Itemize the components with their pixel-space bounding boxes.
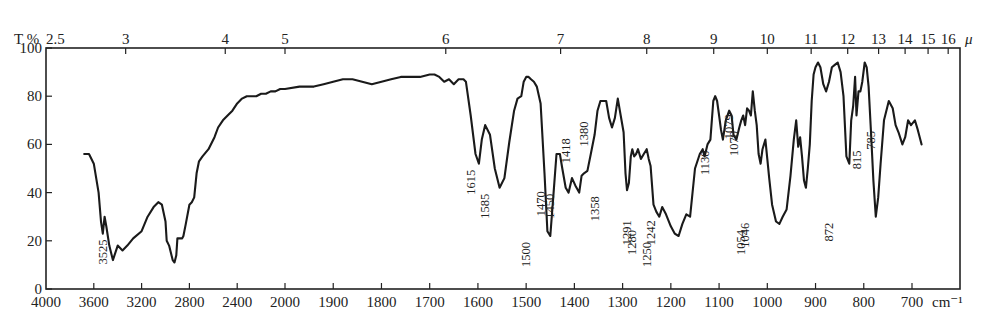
peak-label: 1358 — [588, 196, 602, 221]
peak-label: 785 — [864, 131, 878, 150]
peak-label: 1500 — [519, 242, 533, 267]
micron-tick-label: 13 — [871, 31, 886, 47]
micron-tick-label: 7 — [557, 31, 565, 47]
micron-tick-label: 6 — [442, 31, 450, 47]
peak-label: 1450 — [543, 194, 557, 219]
y-axis: 020406080100 — [20, 40, 53, 297]
peak-label: 1070 — [727, 131, 741, 156]
peak-label: 1615 — [464, 170, 478, 195]
peak-label: 1280 — [625, 230, 639, 255]
x-tick-label: 1000 — [752, 294, 782, 310]
micron-tick-label: 2.5 — [46, 31, 65, 47]
x-tick-label: 1700 — [415, 294, 445, 310]
peak-annotations: 3525161515851500147014501418138013581291… — [96, 114, 878, 267]
spectrum-line — [84, 63, 921, 263]
x-tick-label: 1400 — [559, 294, 589, 310]
peak-label: 872 — [822, 223, 836, 242]
micron-tick-label: 10 — [760, 31, 775, 47]
micron-tick-label: 4 — [222, 31, 230, 47]
micron-tick-label: 16 — [941, 31, 957, 47]
micron-tick-label: 8 — [643, 31, 651, 47]
x-tick-label: 1200 — [656, 294, 686, 310]
peak-label: 815 — [850, 150, 864, 169]
micron-tick-label: 11 — [804, 31, 818, 47]
micron-axis: 2.5345678910111213141516 — [46, 31, 956, 54]
peak-label: 1046 — [738, 223, 752, 248]
peak-label: 1418 — [559, 138, 573, 163]
x-tick-label: 1100 — [704, 294, 733, 310]
x-tick-label: 4000 — [31, 294, 61, 310]
peak-label: 1380 — [577, 121, 591, 146]
micron-tick-label: 5 — [281, 31, 289, 47]
y-tick-label: 20 — [27, 233, 42, 249]
micron-tick-label: 14 — [898, 31, 914, 47]
micron-tick-label: 9 — [710, 31, 718, 47]
x-tick-label: 800 — [853, 294, 876, 310]
micron-tick-label: 15 — [921, 31, 936, 47]
peak-label: 1130 — [698, 150, 712, 175]
wavenumber-axis: 4000360032002800240020001900180017001600… — [31, 283, 963, 310]
x-tick-label: 1600 — [463, 294, 493, 310]
peak-label: 1585 — [478, 194, 492, 219]
x-tick-label: 1800 — [366, 294, 396, 310]
y-tick-label: 100 — [20, 40, 43, 56]
x-tick-label: 2400 — [222, 294, 252, 310]
x-tick-label: 1300 — [608, 294, 638, 310]
x-tick-label: 900 — [804, 294, 827, 310]
x-tick-label: 2800 — [174, 294, 204, 310]
ir-spectrum-chart: T % 2.5345678910111213141516 μ 020406080… — [0, 0, 983, 326]
x-unit-label: cm⁻¹ — [932, 294, 963, 310]
peak-label: 3525 — [96, 240, 110, 265]
y-tick-label: 60 — [27, 136, 42, 152]
y-tick-label: 80 — [27, 88, 42, 104]
x-tick-label: 1500 — [511, 294, 541, 310]
micron-tick-label: 3 — [122, 31, 130, 47]
x-tick-label: 700 — [901, 294, 924, 310]
x-tick-label: 3600 — [79, 294, 109, 310]
peak-label: 1242 — [644, 220, 658, 245]
x-tick-label: 3200 — [127, 294, 157, 310]
micron-tick-label: 12 — [840, 31, 855, 47]
x-tick-label: 2000 — [270, 294, 300, 310]
y-tick-label: 40 — [27, 185, 42, 201]
micron-unit-label: μ — [964, 31, 973, 47]
x-tick-label: 1900 — [318, 294, 348, 310]
